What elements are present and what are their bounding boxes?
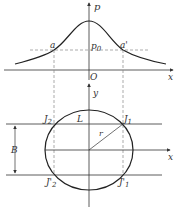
- top-x-axis-label: x: [168, 72, 173, 82]
- p-axis-label: p: [94, 1, 101, 12]
- radius-line: [89, 124, 123, 150]
- pressure-distribution-diagram: p x O p0 a a' y x J2 J1 J'2 J'1 L r B: [0, 0, 180, 213]
- point-j2-prime-label: J'2: [44, 177, 57, 189]
- point-a-prime-label: a': [120, 40, 128, 50]
- radius-label: r: [99, 129, 104, 138]
- top-plot: p x O p0 a a': [4, 1, 173, 82]
- bottom-x-axis-label: x: [168, 152, 173, 162]
- point-j1-prime-label: J'1: [117, 177, 130, 189]
- chord-label: L: [76, 114, 83, 124]
- p0-label: p0: [91, 41, 102, 53]
- width-label: B: [10, 145, 18, 155]
- point-a-label: a: [50, 40, 55, 50]
- bottom-plot: y x J2 J1 J'2 J'1 L r B: [6, 84, 173, 207]
- origin-label: O: [90, 72, 98, 82]
- y-axis-label: y: [92, 88, 99, 98]
